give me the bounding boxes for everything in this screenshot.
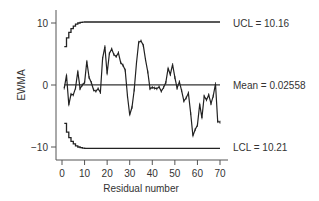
- ewma-control-chart: 100−10 010203040506070 EWMA Residual num…: [0, 0, 319, 201]
- lcl-annotation: LCL = 10.21: [233, 142, 288, 153]
- x-tick-label: 0: [59, 168, 65, 179]
- x-tick-label: 30: [124, 168, 136, 179]
- plot-lines: [64, 22, 220, 148]
- y-tick-label: −10: [31, 142, 48, 153]
- x-tick-label: 50: [169, 168, 181, 179]
- x-tick-label: 10: [79, 168, 91, 179]
- x-tick-label: 60: [192, 168, 204, 179]
- y-tick-label: 10: [37, 18, 49, 29]
- x-ticks: 010203040506070: [59, 160, 226, 179]
- x-axis-label: Residual number: [103, 183, 179, 194]
- y-axis-label: EWMA: [16, 69, 27, 100]
- ucl-annotation: UCL = 10.16: [233, 18, 289, 29]
- x-tick-label: 20: [102, 168, 114, 179]
- y-ticks: 100−10: [31, 18, 56, 153]
- y-tick-label: 0: [42, 80, 48, 91]
- x-tick-label: 40: [147, 168, 159, 179]
- mean-annotation: Mean = 0.02558: [233, 80, 306, 91]
- ewma-line: [64, 41, 220, 136]
- x-tick-label: 70: [214, 168, 226, 179]
